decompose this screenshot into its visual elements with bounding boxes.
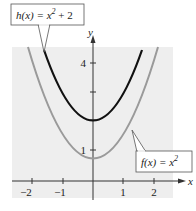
x-tick-label: −2 [20,186,32,198]
chart: −2 −1 1 2 1 4 x y h(x) = x2 + 2 f(x) = x… [0,0,196,211]
y-tick-label: 4 [81,57,87,69]
x-axis-label: x [187,175,193,187]
x-axis-arrow-icon [178,179,186,184]
y-tick-label: 1 [81,144,87,156]
svg-text:f(x) = x2: f(x) = x2 [141,154,178,169]
x-tick-label: −1 [54,186,66,198]
x-tick-label: 1 [120,186,126,198]
h-annotation: h(x) = x2 + 2 [11,4,84,52]
h-label: h(x) = x [16,9,52,22]
svg-text:h(x) = x2 + 2: h(x) = x2 + 2 [16,7,73,22]
y-axis-label: y [87,26,93,38]
f-label: f(x) = x [141,156,174,169]
x-tick-label: 2 [151,186,157,198]
